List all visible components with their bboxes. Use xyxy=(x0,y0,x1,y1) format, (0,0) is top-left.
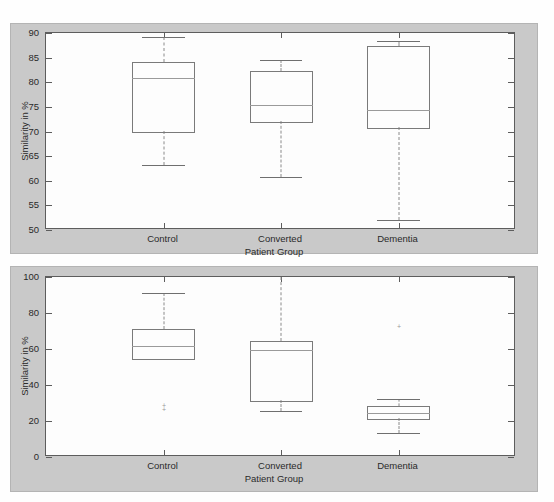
whisker-cap-lower xyxy=(260,177,303,178)
whisker-cap-upper xyxy=(377,41,420,42)
y-tick-top-65 xyxy=(46,156,52,157)
boxplot-panel-bottom: 020406080100 Similarity in % ControlConv… xyxy=(10,266,538,492)
y-tick-right-bottom-20 xyxy=(508,421,514,422)
whisker-lower xyxy=(163,131,164,165)
scan-caption xyxy=(0,0,554,10)
x-category-converted: Converted xyxy=(258,233,302,244)
y-tick-right-bottom-0 xyxy=(508,457,514,458)
x-category-dementia: Dementia xyxy=(377,460,418,471)
whisker-cap-lower xyxy=(377,433,420,434)
y-tick-right-top-55 xyxy=(508,205,514,206)
boxplot-bottom-control xyxy=(132,277,195,455)
y-tick-label-top-70: 70 xyxy=(28,127,39,137)
y-tick-bottom-20 xyxy=(46,421,52,422)
x-category-converted: Converted xyxy=(258,460,302,471)
y-tick-bottom-60 xyxy=(46,349,52,350)
x-category-control: Control xyxy=(147,460,178,471)
y-tick-right-top-60 xyxy=(508,181,514,182)
y-tick-right-top-65 xyxy=(508,156,514,157)
whisker-cap-lower xyxy=(260,411,303,412)
y-tick-right-bottom-60 xyxy=(508,349,514,350)
y-tick-right-top-80 xyxy=(508,82,514,83)
whisker-upper xyxy=(163,37,164,62)
boxplot-top-converted xyxy=(250,33,313,228)
whisker-upper xyxy=(281,277,282,341)
boxplot-panel-top: 505560657075808590 Similarity in % Contr… xyxy=(10,23,538,254)
y-tick-right-top-70 xyxy=(508,132,514,133)
whisker-cap-upper xyxy=(377,399,420,400)
whisker-lower xyxy=(281,121,282,177)
median-line xyxy=(132,346,195,347)
y-tick-top-85 xyxy=(46,58,52,59)
y-tick-bottom-100 xyxy=(46,277,52,278)
x-axis-title-top: Patient Group xyxy=(11,246,537,257)
y-axis-label-bottom: Similarity in % xyxy=(19,336,30,396)
y-tick-top-60 xyxy=(46,181,52,182)
whisker-lower xyxy=(398,127,399,220)
y-tick-label-bottom-60: 60 xyxy=(28,344,39,354)
boxplot-bottom-converted xyxy=(250,277,313,455)
y-tick-right-bottom-80 xyxy=(508,313,514,314)
y-tick-label-bottom-0: 0 xyxy=(34,452,39,462)
y-tick-right-bottom-100 xyxy=(508,277,514,278)
y-tick-top-90 xyxy=(46,33,52,34)
boxplot-bottom-dementia xyxy=(367,277,430,455)
y-tick-top-50 xyxy=(46,230,52,231)
y-tick-label-top-65: 65 xyxy=(28,151,39,161)
y-tick-label-top-80: 80 xyxy=(28,78,39,88)
whisker-cap-upper xyxy=(260,60,303,61)
y-tick-top-55 xyxy=(46,205,52,206)
y-tick-label-top-75: 75 xyxy=(28,102,39,112)
plot-area-bottom: 020406080100 xyxy=(45,276,515,456)
y-tick-label-bottom-100: 100 xyxy=(23,272,39,282)
y-tick-top-75 xyxy=(46,107,52,108)
boxplot-top-control xyxy=(132,33,195,228)
outlier-marker xyxy=(162,410,165,413)
x-axis-title-bottom: Patient Group xyxy=(11,473,537,484)
outlier-marker xyxy=(397,327,400,330)
x-category-dementia: Dementia xyxy=(377,233,418,244)
box-iqr xyxy=(250,71,313,123)
whisker-upper xyxy=(163,293,164,328)
figure-page: 505560657075808590 Similarity in % Contr… xyxy=(0,0,554,502)
y-tick-top-70 xyxy=(46,132,52,133)
box-iqr xyxy=(132,329,195,361)
whisker-cap-lower xyxy=(377,220,420,221)
median-line xyxy=(367,110,430,111)
median-line xyxy=(367,413,430,414)
y-tick-right-top-90 xyxy=(508,33,514,34)
y-tick-right-top-50 xyxy=(508,230,514,231)
whisker-upper xyxy=(281,60,282,71)
y-tick-label-top-60: 60 xyxy=(28,176,39,186)
whisker-cap-lower xyxy=(142,165,185,166)
y-tick-right-top-75 xyxy=(508,107,514,108)
y-tick-label-top-85: 85 xyxy=(28,53,39,63)
boxplot-top-dementia xyxy=(367,33,430,228)
whisker-cap-upper xyxy=(142,37,185,38)
y-tick-label-top-90: 90 xyxy=(28,28,39,38)
whisker-upper xyxy=(398,399,399,406)
y-tick-top-80 xyxy=(46,82,52,83)
y-tick-bottom-0 xyxy=(46,457,52,458)
y-tick-label-bottom-20: 20 xyxy=(28,416,39,426)
whisker-lower xyxy=(398,418,399,433)
plot-area-top: 505560657075808590 xyxy=(45,32,515,229)
box-iqr xyxy=(367,46,430,129)
median-line xyxy=(132,78,195,79)
y-tick-bottom-80 xyxy=(46,313,52,314)
y-tick-label-top-55: 55 xyxy=(28,201,39,211)
y-tick-right-bottom-40 xyxy=(508,385,514,386)
y-tick-label-bottom-40: 40 xyxy=(28,380,39,390)
x-category-control: Control xyxy=(147,233,178,244)
y-tick-right-top-85 xyxy=(508,58,514,59)
box-iqr xyxy=(132,62,195,133)
y-tick-label-top-50: 50 xyxy=(28,225,39,235)
y-tick-label-bottom-80: 80 xyxy=(28,308,39,318)
median-line xyxy=(250,350,313,351)
y-axis-label-top: Similarity in % xyxy=(19,101,30,161)
median-line xyxy=(250,105,313,106)
whisker-cap-upper xyxy=(142,293,185,294)
y-tick-bottom-40 xyxy=(46,385,52,386)
